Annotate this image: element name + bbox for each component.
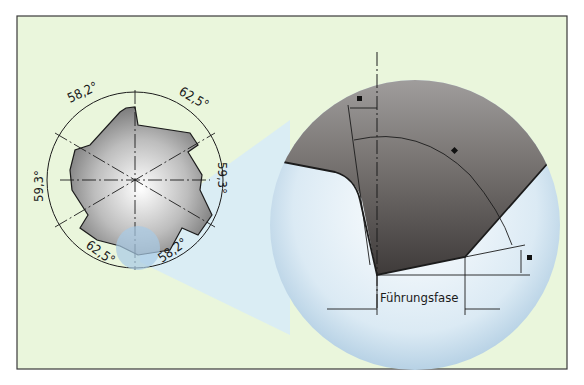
angle-label-right: 59,3°	[215, 162, 230, 194]
marker-square	[527, 255, 532, 260]
angle-label-left: 59,3°	[31, 170, 46, 202]
marker-square	[357, 96, 362, 101]
drill-cross-section-diagram: Führungsfase 58,2° 62,5° 59,3° 59,3° 62,…	[0, 0, 584, 385]
margin-label: Führungsfase	[380, 290, 459, 305]
